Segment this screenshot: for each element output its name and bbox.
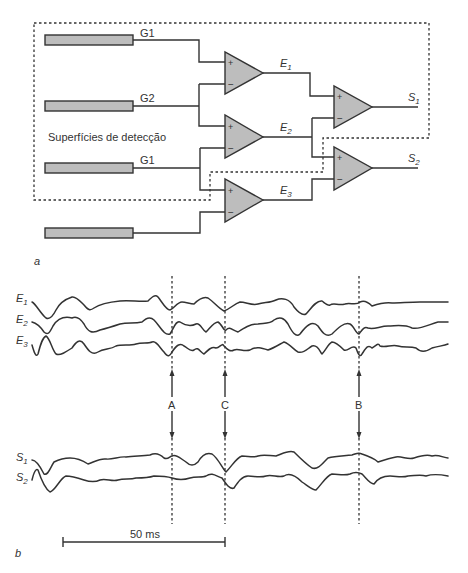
svg-text:+: + xyxy=(337,153,342,163)
svg-text:+: + xyxy=(337,92,342,102)
svg-text:C: C xyxy=(221,399,229,411)
electrode-bar-4 xyxy=(45,228,133,238)
scale-bar: 50 ms xyxy=(63,528,225,547)
wire-e2-amp1-amp2 xyxy=(133,84,225,126)
amplifier-s2: + − xyxy=(334,147,372,190)
svg-text:+: + xyxy=(228,122,233,132)
emg-detection-diagram: G1 G2 G1 Superfícies de detecção + − + −… xyxy=(0,0,468,573)
marker-arrow-b: B xyxy=(355,369,362,439)
panel-b-label: b xyxy=(15,547,21,559)
marker-arrow-c: C xyxy=(221,369,229,439)
panel-b-traces: A C B E1 E2 E3 S1 S2 xyxy=(15,276,448,559)
output-label-e3: E3 xyxy=(280,184,292,199)
amplifier-3: + − xyxy=(225,179,263,222)
wire-e4-amp3 xyxy=(133,212,225,233)
svg-text:+: + xyxy=(228,186,233,196)
trace-label-e2: E2 xyxy=(16,313,28,328)
electrode-label-1: G1 xyxy=(140,27,155,39)
electrode-bar-3 xyxy=(45,163,133,173)
wire-e3-output xyxy=(263,179,334,200)
electrode-label-2: G2 xyxy=(140,92,155,104)
panel-a-circuit: G1 G2 G1 Superfícies de detecção + − + −… xyxy=(34,23,429,267)
trace-label-e1: E1 xyxy=(16,292,28,307)
svg-text:−: − xyxy=(228,207,234,218)
output-label-s1: S1 xyxy=(408,91,420,106)
trace-e2 xyxy=(32,317,448,335)
svg-text:+: + xyxy=(228,58,233,68)
detection-surfaces-label: Superfícies de detecção xyxy=(48,131,166,143)
panel-a-label: a xyxy=(34,255,40,267)
svg-text:A: A xyxy=(168,399,176,411)
output-label-e2: E2 xyxy=(280,121,292,136)
svg-text:−: − xyxy=(337,174,343,185)
trace-label-e3: E3 xyxy=(16,334,28,349)
wire-e1-amp1 xyxy=(133,40,225,62)
svg-text:B: B xyxy=(355,399,362,411)
scale-bar-label: 50 ms xyxy=(130,528,160,540)
svg-text:−: − xyxy=(228,79,234,90)
electrode-bar-2 xyxy=(45,101,133,111)
amplifier-1: + − xyxy=(225,52,263,94)
amplifier-2: + − xyxy=(225,115,263,158)
svg-text:−: − xyxy=(337,113,343,124)
output-label-s2: S2 xyxy=(408,152,420,167)
trace-e1 xyxy=(32,296,448,319)
trace-e3 xyxy=(32,336,448,356)
trace-label-s2: S2 xyxy=(16,471,28,486)
trace-s2 xyxy=(32,469,448,492)
electrode-label-3: G1 xyxy=(140,154,155,166)
svg-text:−: − xyxy=(228,143,234,154)
wire-e1-output xyxy=(263,73,334,96)
amplifier-s1: + − xyxy=(334,86,372,128)
trace-s1 xyxy=(32,451,448,474)
trace-label-s1: S1 xyxy=(16,451,28,466)
output-label-e1: E1 xyxy=(280,57,292,72)
electrode-bar-1 xyxy=(45,35,133,45)
marker-arrow-a: A xyxy=(168,369,176,439)
